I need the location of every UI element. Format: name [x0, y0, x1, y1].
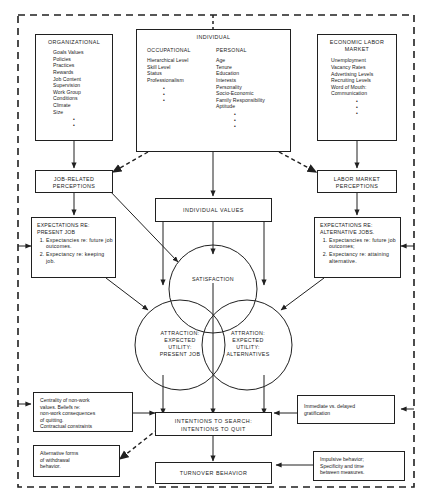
impulsive-text: Impulsive behavior; Specificity and time… — [314, 452, 404, 476]
organizational-items: Goals Values Policies Practices Rewards … — [36, 46, 112, 115]
box-alternative-withdrawal: Alternative forms of withdrawal behavior… — [33, 445, 120, 477]
organizational-title: ORGANIZATIONAL — [36, 35, 112, 46]
personal-items: Age Tenure Education Interests Personali… — [216, 53, 290, 110]
expectations-alternative-item-1: Expectancies re: future job outcomes; — [329, 237, 400, 251]
economic-items: Unemployment Vacancy Rates Advertising L… — [318, 53, 396, 97]
gratification-text: Immediate vs. delayed gratification — [298, 396, 394, 416]
economic-title: ECONOMIC LABOR MARKET — [318, 35, 396, 53]
withdrawal-text: Alternative forms of withdrawal behavior… — [34, 446, 119, 470]
labor-market-perceptions-title: LABOR MARKET PERCEPTIONS — [318, 171, 396, 190]
individual-title: INDIVIDUAL — [137, 30, 290, 41]
expectations-alternative-heading: EXPECTATIONS RE: ALTERNATIVE JOBS. — [320, 222, 400, 236]
box-expectations-alternative-jobs: EXPECTATIONS RE: ALTERNATIVE JOBS. Expec… — [314, 217, 401, 278]
intentions-title: INTENTIONS TO SEARCH: INTENTIONS TO QUIT — [156, 418, 271, 433]
expectations-present-heading: EXPECTATIONS RE: PRESENT JOB — [37, 222, 115, 236]
box-expectations-present-job: EXPECTATIONS RE: PRESENT JOB Expectancie… — [31, 217, 116, 278]
box-intentions: INTENTIONS TO SEARCH: INTENTIONS TO QUIT — [155, 412, 272, 436]
personal-ellipsis: ••• — [216, 110, 290, 130]
occupational-ellipsis: ••• — [147, 84, 216, 104]
box-individual: INDIVIDUAL OCCUPATIONAL Hierarchical Lev… — [136, 29, 291, 152]
expectations-present-item-1: Expectancies re: future job outcomes. — [46, 237, 115, 251]
box-individual-values: INDIVIDUAL VALUES — [155, 198, 272, 222]
nonwork-values-text: Centrality of non-work values. Beliefs r… — [34, 393, 132, 430]
box-job-related-perceptions: JOB-RELATED PERCEPTIONS — [35, 170, 113, 193]
box-organizational: ORGANIZATIONAL Goals Values Policies Pra… — [35, 34, 113, 141]
expectations-alternative-item-2: Expectancy re: attaining alternative. — [329, 251, 400, 265]
economic-ellipsis: ••• — [318, 97, 396, 117]
individual-values-title: INDIVIDUAL VALUES — [156, 207, 271, 213]
box-economic-labor-market: ECONOMIC LABOR MARKET Unemployment Vacan… — [317, 34, 397, 141]
attraction-alternatives-label: ATTRATION: EXPECTED UTILITY: ALTERNATIVE… — [211, 330, 285, 358]
attraction-present-label: ATTRACTION: EXPECTED UTILITY: PRESENT JO… — [143, 330, 217, 358]
box-gratification: Immediate vs. delayed gratification — [297, 395, 395, 424]
job-related-perceptions-title: JOB-RELATED PERCEPTIONS — [36, 171, 112, 190]
box-labor-market-perceptions: LABOR MARKET PERCEPTIONS — [317, 170, 397, 193]
expectations-present-item-2: Expectancy re: keeping job. — [46, 251, 115, 265]
turnover-title: TURNOVER BEHAVIOR — [156, 470, 271, 476]
satisfaction-label: SATISFACTION — [178, 276, 248, 283]
turnover-model-diagram: ORGANIZATIONAL Goals Values Policies Pra… — [0, 0, 430, 501]
box-nonwork-values: Centrality of non-work values. Beliefs r… — [33, 392, 133, 432]
box-impulsive-behavior: Impulsive behavior; Specificity and time… — [313, 451, 405, 481]
organizational-ellipsis: •• — [36, 115, 112, 128]
box-turnover-behavior: TURNOVER BEHAVIOR — [155, 462, 272, 484]
occupational-items: Hierarchical Level Skill Level Status Pr… — [147, 53, 216, 83]
